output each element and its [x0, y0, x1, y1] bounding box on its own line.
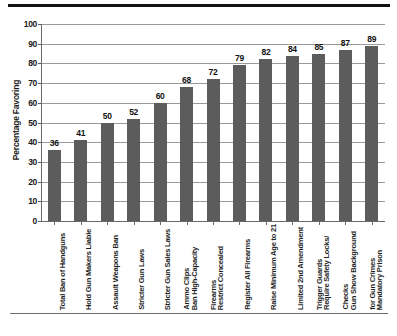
bar[interactable] — [339, 50, 352, 221]
x-axis-label: Require Safety Locks/Trigger Guards — [307, 224, 331, 310]
bar[interactable] — [365, 46, 378, 221]
x-axis-label: Gun Show BackgroundChecks — [333, 224, 357, 310]
bar-group[interactable]: 52 — [127, 24, 140, 221]
bar[interactable] — [74, 140, 87, 221]
y-axis-title: Percentage Favoring — [11, 60, 21, 180]
y-tick-label: 70 — [28, 78, 37, 88]
y-tick-label: 30 — [28, 157, 37, 167]
bar-value-label: 85 — [314, 42, 323, 52]
x-axis-label-line: Restrict Concealed — [217, 246, 225, 310]
y-tick-label: 20 — [28, 177, 37, 187]
x-axis-label: Assault Weapons Ban — [95, 224, 119, 310]
y-tick-label: 90 — [28, 39, 37, 49]
bar[interactable] — [207, 79, 220, 221]
x-axis-label-line: Checks — [342, 284, 350, 310]
x-axis-label-line: Total Ban of Handguns — [59, 233, 67, 310]
x-axis-label-line: Ammo Clips — [183, 268, 191, 310]
bar-value-label: 82 — [261, 47, 270, 57]
x-axis-label: Restrict ConcealedFirearms — [201, 224, 225, 310]
x-axis-label: Mandatory Prisonfor Gun Crimes — [360, 224, 384, 310]
y-tick-label: 0 — [33, 216, 37, 226]
bar-group[interactable]: 41 — [74, 24, 87, 221]
bar[interactable] — [48, 150, 61, 221]
bar-value-label: 84 — [288, 44, 297, 54]
bar[interactable] — [233, 65, 246, 221]
bar-group[interactable]: 84 — [286, 24, 299, 221]
x-axis-category-labels: Total Ban of HandgunsHold Gun Makers Lia… — [41, 224, 385, 310]
x-axis-label-line: for Gun Crimes — [369, 258, 377, 310]
y-tick-label: 40 — [28, 137, 37, 147]
x-axis-label-line: Require Safety Locks/ — [323, 236, 331, 310]
bar[interactable] — [259, 59, 272, 221]
bar-value-label: 79 — [235, 53, 244, 63]
y-tick-label: 100 — [24, 19, 37, 29]
x-axis-label: Register All Firearms — [227, 224, 251, 310]
x-axis-label-line: Stricter Gun Laws — [138, 249, 146, 310]
bar-value-label: 68 — [182, 75, 191, 85]
x-axis-label: Total Ban of Handguns — [42, 224, 66, 310]
x-axis-label-line: Stricter Gun Sales Laws — [164, 229, 172, 310]
bar[interactable] — [180, 87, 193, 221]
x-axis-label-line: Assault Weapons Ban — [112, 235, 120, 310]
bar[interactable] — [154, 103, 167, 221]
bar-group[interactable]: 79 — [233, 24, 246, 221]
bar-value-label: 52 — [129, 107, 138, 117]
y-tick-label: 80 — [28, 58, 37, 68]
bar-value-label: 89 — [367, 34, 376, 44]
bar[interactable] — [127, 119, 140, 221]
bar-value-label: 41 — [76, 128, 85, 138]
bar-value-label: 50 — [103, 111, 112, 121]
x-axis-label-line: Firearms — [210, 280, 218, 310]
x-axis-label-line: Trigger Guards — [316, 259, 324, 310]
bar-group[interactable]: 68 — [180, 24, 193, 221]
x-axis-label-line: Ban High-Capacity — [191, 247, 199, 310]
bar-group[interactable]: 85 — [312, 24, 325, 221]
bar-group[interactable]: 72 — [207, 24, 220, 221]
x-axis-label-line: Register All Firearms — [244, 239, 252, 310]
x-axis-label: Stricter Gun Laws — [122, 224, 146, 310]
bar-value-label: 60 — [156, 91, 165, 101]
x-axis-label-line: Raise Minimum Age to 21 — [270, 224, 278, 310]
bar-value-label: 36 — [50, 138, 59, 148]
bar-group[interactable]: 60 — [154, 24, 167, 221]
bar-group[interactable]: 50 — [101, 24, 114, 221]
x-axis-label-line: Gun Show Background — [350, 231, 358, 310]
x-axis-label: Stricter Gun Sales Laws — [148, 224, 172, 310]
x-axis-label: Raise Minimum Age to 21 — [254, 224, 278, 310]
y-tick-label: 10 — [28, 196, 37, 206]
x-axis-label: Limited 2nd Amendment — [280, 224, 304, 310]
plot-area: 0102030405060708090100 36415052606872798… — [41, 24, 385, 221]
bar[interactable] — [312, 54, 325, 221]
y-tick-label: 60 — [28, 98, 37, 108]
bar[interactable] — [286, 56, 299, 221]
bar-value-label: 72 — [209, 67, 218, 77]
bar-group[interactable]: 36 — [48, 24, 61, 221]
bar-group[interactable]: 89 — [365, 24, 378, 221]
bar-value-label: 87 — [341, 38, 350, 48]
bottom-divider-rule — [10, 313, 388, 314]
x-axis-label-line: Hold Gun Makers Liable — [85, 229, 93, 310]
x-axis-label-line: Mandatory Prison — [376, 250, 384, 310]
bar[interactable] — [101, 123, 114, 222]
x-axis-label: Hold Gun Makers Liable — [69, 224, 93, 310]
bar-group[interactable]: 87 — [339, 24, 352, 221]
x-axis-label-line: Limited 2nd Amendment — [297, 227, 305, 310]
y-tick-label: 50 — [28, 118, 37, 128]
x-axis-label: Ban High-CapacityAmmo Clips — [175, 224, 199, 310]
bars-layer: 36415052606872798284858789 — [41, 24, 385, 221]
bar-chart-figure: Percentage Favoring 01020304050607080901… — [0, 0, 397, 336]
bar-group[interactable]: 82 — [259, 24, 272, 221]
